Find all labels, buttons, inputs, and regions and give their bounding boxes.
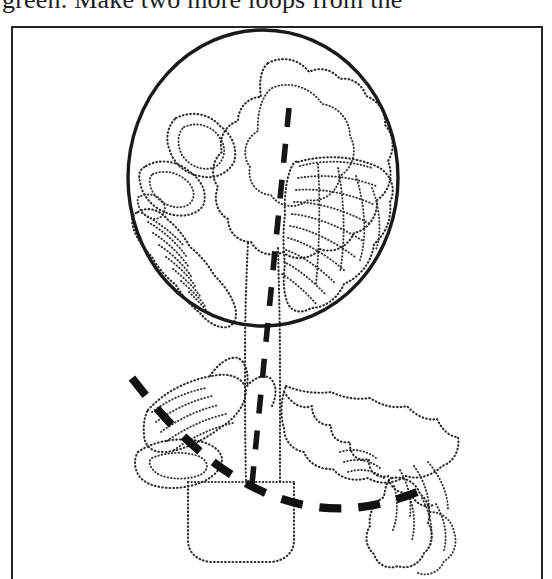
caption-text: green. Make two more loops from the [2, 0, 403, 15]
scanned-page: green. Make two more loops from the [0, 0, 552, 579]
figure-border [11, 26, 543, 579]
caption-clip: green. Make two more loops from the [0, 0, 552, 22]
